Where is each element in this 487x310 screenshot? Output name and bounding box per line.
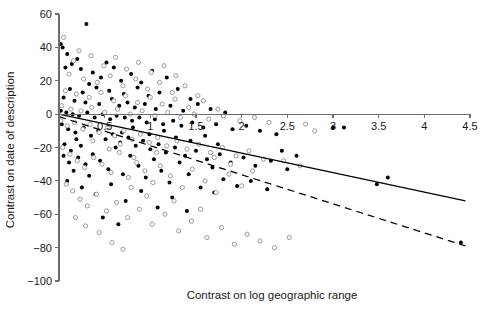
data-point-open [227,172,231,176]
data-point-filled [185,209,189,213]
data-point-open [170,90,174,94]
data-point-open [183,84,187,88]
data-point-open [108,74,112,78]
data-point-open [126,175,130,179]
data-point-open [113,134,117,138]
data-point-filled [73,99,77,103]
data-point-open [100,162,104,166]
data-point-filled [181,109,185,113]
data-point-open [160,102,164,106]
data-point-filled [109,182,113,186]
y-tick-label: 40 [40,41,52,53]
data-point-open [148,95,152,99]
data-point-filled [386,176,390,180]
data-point-filled [87,82,91,86]
data-point-filled [173,146,177,150]
data-point-filled [72,169,76,173]
data-point-filled [258,129,262,133]
data-point-filled [189,97,193,101]
data-point-filled [199,186,203,190]
data-point-filled [253,164,257,168]
data-point-open [149,70,153,74]
data-point-open [145,194,149,198]
data-point-open [232,242,236,246]
y-tick-label: −100 [27,275,52,287]
data-point-open [163,212,167,216]
data-point-filled [203,134,207,138]
data-point-open [132,155,136,159]
data-point-open [198,207,202,211]
y-axis-title: Contrast on date of description [4,72,16,229]
data-point-filled [141,139,145,143]
data-point-filled [154,107,158,111]
data-point-open [63,89,67,93]
data-point-filled [179,124,183,128]
data-point-open [201,99,205,103]
data-point-open [173,97,177,101]
data-point-open [109,170,113,174]
data-point-open [162,64,166,68]
data-point-filled [101,216,105,220]
data-point-filled [74,137,78,141]
data-point-filled [73,130,77,134]
data-point-open [229,162,233,166]
data-point-filled [61,45,65,49]
data-point-filled [214,122,218,126]
data-point-open [64,182,68,186]
data-point-filled [152,157,156,161]
data-point-filled [216,142,220,146]
data-point-filled [171,119,175,123]
data-point-open [209,150,213,154]
data-point-open [219,226,223,230]
data-point-open [60,104,64,108]
data-point-filled [143,102,147,106]
data-point-filled [126,100,130,104]
data-point-filled [274,132,278,136]
data-point-open [85,204,89,208]
data-point-filled [134,144,138,148]
data-point-open [124,67,128,71]
data-point-open [75,159,79,163]
data-point-filled [65,52,69,56]
data-point-open [117,150,121,154]
data-point-filled [178,161,182,165]
y-tick-label: −40 [33,175,52,187]
data-point-open [82,165,86,169]
data-point-open [115,107,119,111]
data-point-open [165,144,169,148]
data-point-filled [187,172,191,176]
data-point-open [140,109,144,113]
data-point-filled [91,70,95,74]
x-tick-label: 1.5 [188,120,203,132]
data-point-open [69,107,73,111]
data-point-open [205,236,209,240]
data-point-open [158,164,162,168]
data-point-open [72,59,76,63]
data-point-filled [104,137,108,141]
data-point-open [190,167,194,171]
y-tick-label: −60 [33,208,52,220]
data-point-open [65,124,69,128]
data-point-open [77,49,81,53]
data-point-open [95,80,99,84]
data-point-filled [280,149,284,153]
data-point-open [157,80,161,84]
data-point-open [90,105,94,109]
y-tick-label: 60 [40,8,52,20]
data-point-open [214,190,218,194]
data-point-filled [157,90,161,94]
data-point-open [168,174,172,178]
data-point-open [258,239,262,243]
chart-page: −100−80−60−40−2002040600.511.522.533.544… [0,0,487,310]
dashed-regression-line [59,117,465,246]
data-point-filled [205,157,209,161]
data-point-filled [97,102,101,106]
data-point-filled [83,100,87,104]
data-point-filled [194,149,198,153]
data-point-open [121,84,125,88]
data-point-open [212,155,216,159]
data-point-open [71,189,75,193]
data-point-open [122,129,126,133]
data-point-open [118,142,122,146]
data-point-filled [130,119,134,123]
